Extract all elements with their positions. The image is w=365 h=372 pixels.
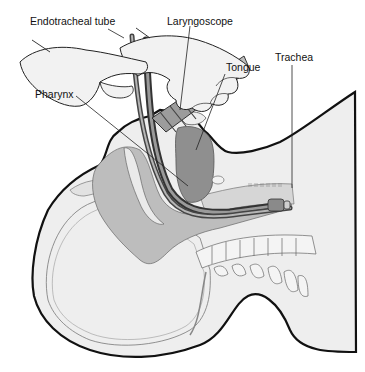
left-hand-thumb <box>100 82 133 98</box>
tongue <box>176 126 215 202</box>
label-pharynx: Pharynx <box>35 88 74 100</box>
label-tongue: Tongue <box>226 61 261 73</box>
label-endotracheal-tube: Endotracheal tube <box>30 15 115 27</box>
tube-cuff <box>268 199 284 211</box>
hyoid <box>212 176 224 184</box>
tube-tip <box>284 201 290 209</box>
label-laryngoscope: Laryngoscope <box>167 15 233 27</box>
label-trachea: Trachea <box>275 51 313 63</box>
intubation-diagram: Endotracheal tube Laryngoscope Tongue Tr… <box>0 0 365 372</box>
diagram-canvas: Endotracheal tube Laryngoscope Tongue Tr… <box>0 0 365 372</box>
